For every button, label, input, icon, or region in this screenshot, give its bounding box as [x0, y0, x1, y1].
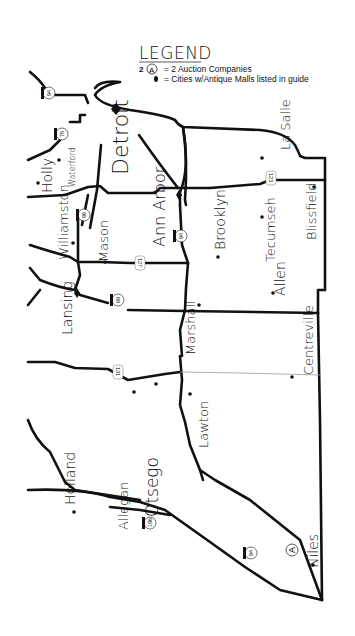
interstate-75-shield: 75 [54, 128, 68, 140]
svg-text:131: 131 [115, 367, 121, 376]
interstate-196-shield: 196 [142, 517, 156, 529]
label-lawton: Lawton [196, 401, 211, 448]
label-allen: Allen [272, 261, 288, 296]
svg-text:75: 75 [59, 131, 65, 137]
label-lansing: Lansing [59, 281, 75, 335]
auction-symbol-icon: A [147, 64, 157, 75]
centreville-marker-icon [290, 375, 294, 379]
label-allegan: Allegan [116, 482, 131, 530]
svg-text:69: 69 [115, 297, 121, 303]
us-12-shield: 123 [266, 171, 276, 185]
svg-text:127: 127 [137, 258, 143, 267]
brooklyn-marker-icon [216, 255, 220, 259]
lawton-marker-icon [188, 392, 192, 396]
allegan-marker-icon [132, 390, 136, 394]
svg-text:94: 94 [178, 233, 184, 239]
svg-text:A: A [149, 66, 155, 75]
svg-text:123: 123 [268, 173, 274, 182]
niles-auction-icon: A [286, 544, 298, 556]
label-tecumseh: Tecumseh [263, 197, 278, 262]
label-niles: Niles [305, 534, 321, 568]
svg-text:196: 196 [147, 518, 153, 527]
svg-text:96: 96 [81, 212, 87, 218]
svg-text:A: A [287, 547, 297, 553]
label-centreville: Centreville [301, 305, 316, 375]
label-annarbor: Ann Arbor [150, 166, 169, 247]
city-dot-icon [154, 76, 158, 82]
county-line [180, 372, 320, 375]
label-holland: Holland [62, 452, 78, 505]
williamston-marker-icon [71, 241, 75, 245]
legend: LEGEND 2 A = 2 Auction Companies = Citie… [139, 43, 309, 84]
interstate-96-shield: 96 [76, 209, 90, 221]
otsego-marker-icon [154, 382, 158, 386]
legend-title: LEGEND [139, 43, 212, 63]
label-mason: Mason [96, 220, 111, 262]
legend-auction-text: = 2 Auction Companies [164, 64, 252, 74]
label-brooklyn: Brooklyn [212, 189, 228, 250]
waterford-marker-icon [57, 158, 61, 162]
interstate-94-shield-annarbor: 94 [173, 230, 187, 242]
interstate-94-shield-ne: 94 [41, 87, 55, 99]
label-williamston: Williamston [56, 184, 71, 260]
svg-text:94: 94 [248, 550, 254, 556]
legend-city-text: = Cities w/Antique Malls listed in guide [164, 74, 309, 84]
interstate-94-shield-sw: 94 [243, 547, 257, 559]
label-detroit: Detroit [108, 99, 133, 175]
us-127-shield: 127 [135, 256, 145, 270]
label-marshall: Marshall [183, 300, 198, 355]
label-holly: Holly [39, 158, 55, 193]
label-lasalle: La Salle [278, 99, 293, 150]
svg-text:94: 94 [46, 90, 52, 96]
michigan-antique-map: LEGEND 2 A = 2 Auction Companies = Citie… [0, 0, 355, 636]
lasalle-marker-icon [260, 156, 264, 160]
holland-marker-icon [72, 510, 76, 514]
legend-auction-count: 2 [139, 65, 144, 74]
label-blissfield: Blissfield [304, 183, 319, 240]
interstate-69-shield: 69 [110, 294, 124, 306]
label-waterford: Waterford [68, 147, 77, 187]
us-131-shield: 131 [113, 365, 123, 379]
label-otsego: Otsego [142, 457, 162, 517]
